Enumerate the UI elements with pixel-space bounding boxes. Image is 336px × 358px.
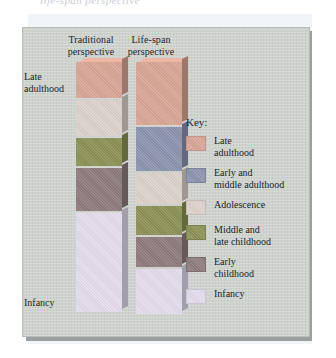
segment-texture — [136, 62, 182, 125]
swatch-texture — [187, 201, 205, 214]
bar-segment-adolescence — [76, 100, 122, 136]
swatch-texture — [187, 290, 205, 303]
column-header-lifespan: Life-spanperspective — [122, 34, 180, 57]
legend-label-infancy: Infancy — [214, 288, 245, 300]
legend-swatch-early-middle-adulthood — [186, 168, 206, 183]
legend-label-late-adulthood: Lateadulthood — [214, 135, 254, 158]
bar-segment-infancy — [136, 269, 182, 314]
bar-segment-early-childhood — [76, 168, 122, 211]
column-header-traditional-label: Traditionalperspective — [68, 34, 115, 57]
legend-label-middle-late-childhood: Middle andlate childhood — [214, 224, 271, 247]
legend-label-adolescence: Adolescence — [214, 199, 265, 211]
segment-texture — [136, 269, 182, 314]
segment-texture — [76, 62, 122, 98]
legend-rows: LateadulthoodEarly andmiddle adulthoodAd… — [186, 135, 304, 304]
segment-texture — [136, 237, 182, 267]
segment-texture — [76, 213, 122, 312]
legend-swatch-adolescence — [186, 200, 206, 215]
axis-label-late-adulthood: Lateadulthood — [24, 71, 74, 94]
legend-item-late-adulthood: Lateadulthood — [186, 135, 304, 158]
bar-lifespan — [136, 62, 182, 314]
legend-swatch-infancy — [186, 289, 206, 304]
legend-swatch-late-adulthood — [186, 136, 206, 151]
segment-texture — [76, 168, 122, 211]
bar-segment-late-adulthood — [76, 62, 122, 98]
legend-label-early-middle-adulthood: Early andmiddle adulthood — [214, 167, 284, 190]
legend-title: Key: — [186, 116, 304, 128]
column-header-traditional: Traditionalperspective — [62, 34, 120, 57]
segment-texture — [136, 127, 182, 171]
legend-swatch-early-childhood — [186, 257, 206, 272]
segment-texture — [136, 206, 182, 235]
legend-item-early-childhood: Earlychildhood — [186, 256, 304, 279]
bar-segment-adolescence — [136, 173, 182, 204]
swatch-texture — [187, 258, 205, 271]
bar-segment-middle-and-late-childhood — [76, 138, 122, 166]
legend-item-early-middle-adulthood: Early andmiddle adulthood — [186, 167, 304, 190]
caption-sliver: life-span perspective — [40, 0, 300, 7]
axis-label-infancy: Infancy — [24, 297, 74, 309]
swatch-texture — [187, 137, 205, 150]
segment-texture — [76, 138, 122, 166]
legend-item-infancy: Infancy — [186, 288, 304, 304]
bar-segment-early-childhood — [136, 237, 182, 267]
bar-segment-infancy — [76, 213, 122, 312]
bar-segment-early-and-middle-adulthood — [136, 127, 182, 171]
legend-item-middle-late-childhood: Middle andlate childhood — [186, 224, 304, 247]
legend-label-early-childhood: Earlychildhood — [214, 256, 254, 279]
bar-segment-late-adulthood — [136, 62, 182, 125]
swatch-texture — [187, 169, 205, 182]
segment-texture — [136, 173, 182, 204]
legend-swatch-middle-late-childhood — [186, 225, 206, 240]
bar-traditional — [76, 62, 122, 312]
bar-segment-middle-and-late-childhood — [136, 206, 182, 235]
swatch-texture — [187, 226, 205, 239]
segment-texture — [76, 100, 122, 136]
legend: Key: LateadulthoodEarly andmiddle adulth… — [186, 116, 304, 313]
legend-item-adolescence: Adolescence — [186, 199, 304, 215]
column-header-lifespan-label: Life-spanperspective — [128, 34, 175, 57]
